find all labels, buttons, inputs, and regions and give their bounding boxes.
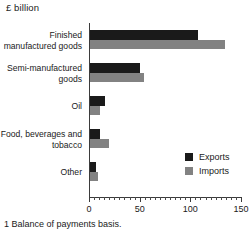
- category-label: Semi-manufactured goods: [0, 63, 82, 84]
- x-tick-major: [241, 197, 242, 202]
- bar-group: Oil: [89, 96, 249, 116]
- bar-exports: [90, 96, 105, 106]
- x-tick-label: 150: [233, 204, 248, 214]
- x-tick-minor: [195, 197, 196, 200]
- legend-swatch-icon: [185, 153, 193, 161]
- x-tick-minor: [165, 197, 166, 200]
- x-tick-major: [140, 197, 141, 202]
- bar-group: Finished manufactured goods: [89, 30, 249, 50]
- x-tick-minor: [160, 197, 161, 200]
- x-tick-label: 0: [86, 204, 91, 214]
- bar-chart: £ billion Finished manufactured goodsSem…: [0, 0, 249, 234]
- x-tick-major: [190, 197, 191, 202]
- x-tick-minor: [226, 197, 227, 200]
- x-tick-minor: [104, 197, 105, 200]
- x-tick-label: 50: [135, 204, 145, 214]
- x-tick-minor: [206, 197, 207, 200]
- x-tick-major: [89, 197, 90, 202]
- x-tick-label: 100: [183, 204, 198, 214]
- x-tick-minor: [94, 197, 95, 200]
- chart-legend: ExportsImports: [185, 150, 230, 178]
- legend-swatch-icon: [185, 167, 193, 175]
- x-tick-minor: [180, 197, 181, 200]
- bar-exports: [90, 129, 100, 139]
- x-tick-minor: [216, 197, 217, 200]
- bar-imports: [90, 40, 225, 50]
- legend-label: Imports: [199, 166, 229, 176]
- x-tick-minor: [170, 197, 171, 200]
- x-tick-minor: [221, 197, 222, 200]
- x-tick-minor: [211, 197, 212, 200]
- x-tick-minor: [175, 197, 176, 200]
- bar-imports: [90, 172, 98, 182]
- bar-imports: [90, 106, 100, 116]
- x-tick-minor: [124, 197, 125, 200]
- category-label: Finished manufactured goods: [0, 30, 82, 51]
- x-tick-minor: [236, 197, 237, 200]
- category-label: Food, beverages and tobacco: [0, 129, 82, 150]
- x-tick-minor: [231, 197, 232, 200]
- category-label: Oil: [0, 101, 82, 112]
- x-tick-minor: [150, 197, 151, 200]
- bar-exports: [90, 30, 198, 40]
- bar-imports: [90, 73, 144, 83]
- x-tick-minor: [119, 197, 120, 200]
- legend-label: Exports: [199, 152, 230, 162]
- bar-group: Food, beverages and tobacco: [89, 129, 249, 149]
- x-tick-minor: [145, 197, 146, 200]
- legend-item[interactable]: Imports: [185, 164, 230, 178]
- x-tick-minor: [109, 197, 110, 200]
- x-tick-minor: [99, 197, 100, 200]
- legend-item[interactable]: Exports: [185, 150, 230, 164]
- bar-group: Semi-manufactured goods: [89, 63, 249, 83]
- x-tick-minor: [200, 197, 201, 200]
- chart-footnote: 1 Balance of payments basis.: [4, 219, 122, 229]
- bar-exports: [90, 63, 140, 73]
- x-tick-minor: [135, 197, 136, 200]
- category-label: Other: [0, 167, 82, 178]
- x-tick-minor: [185, 197, 186, 200]
- x-tick-minor: [114, 197, 115, 200]
- x-tick-minor: [130, 197, 131, 200]
- chart-unit-title: £ billion: [6, 2, 39, 13]
- bar-exports: [90, 162, 96, 172]
- x-tick-minor: [155, 197, 156, 200]
- bar-imports: [90, 139, 109, 149]
